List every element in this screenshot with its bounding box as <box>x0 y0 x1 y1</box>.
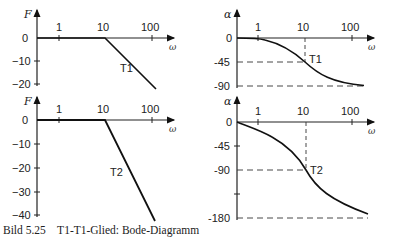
amplitude-chart-t2: F ω 1 10 100 0 −10 −20 −30 −40 T2 <box>12 95 177 221</box>
amplitude-chart-t1: F ω 1 10 100 0 −10 −20 T1 <box>12 8 177 90</box>
x-axis-label: ω <box>169 42 177 52</box>
figure-number: Bild 5.25 <box>3 224 46 236</box>
x-tick-10: 10 <box>297 21 309 33</box>
y-tick-m20: −20 <box>12 78 31 90</box>
phase-chart-t1: α ω 1 10 100 0 -45 -90 T1 <box>214 8 376 92</box>
y-tick-m90: -90 <box>214 80 230 92</box>
amplitude-line-t2 <box>37 120 155 221</box>
y-tick-m45: -45 <box>214 56 230 68</box>
phase-chart-t2: α ω 1 10 100 0 -45 -90 -180 T2 <box>208 95 376 224</box>
y-tick-0: 0 <box>226 32 232 44</box>
x-tick-100: 100 <box>341 105 359 117</box>
x-tick-10: 10 <box>297 105 309 117</box>
y-tick-m10: −10 <box>12 55 31 67</box>
y-tick-0: 0 <box>22 32 28 44</box>
curve-label-t2: T2 <box>310 164 323 176</box>
y-axis-label: F <box>23 8 32 21</box>
x-tick-1: 1 <box>56 21 62 33</box>
figure-caption: Bild 5.25 T1-T1-Glied: Bode-Diagramm <box>3 224 199 236</box>
y-tick-m30: −30 <box>12 186 31 198</box>
y-tick-m40: −40 <box>12 209 31 221</box>
x-tick-100: 100 <box>141 103 159 115</box>
x-tick-100: 100 <box>141 21 159 33</box>
y-tick-m10: −10 <box>12 138 31 150</box>
x-axis-label: ω <box>368 42 376 52</box>
y-tick-m45: -45 <box>214 140 230 152</box>
x-tick-10: 10 <box>97 103 109 115</box>
x-axis-label: ω <box>368 126 376 136</box>
curve-label-t1: T1 <box>120 62 133 74</box>
x-tick-1: 1 <box>255 105 261 117</box>
x-tick-1: 1 <box>255 21 261 33</box>
x-tick-1: 1 <box>56 103 62 115</box>
x-axis-label: ω <box>169 124 177 134</box>
y-tick-m20: −20 <box>12 162 31 174</box>
figure-title: T1-T1-Glied: Bode-Diagramm <box>57 224 199 236</box>
y-tick-m90: -90 <box>214 164 230 176</box>
curve-label-t1: T1 <box>309 53 322 65</box>
y-tick-m180: -180 <box>208 212 230 224</box>
x-tick-10: 10 <box>97 21 109 33</box>
y-axis-label: F <box>23 95 32 108</box>
amplitude-line-t1 <box>37 38 156 89</box>
phase-curve-t2 <box>237 122 368 214</box>
bode-diagram: F ω 1 10 100 0 −10 −20 T1 α ω 1 10 100 0… <box>0 0 393 241</box>
x-tick-100: 100 <box>341 21 359 33</box>
y-tick-0: 0 <box>226 116 232 128</box>
curve-label-t2: T2 <box>110 166 123 178</box>
y-tick-0: 0 <box>22 114 28 126</box>
y-axis-label: α <box>224 95 232 108</box>
y-axis-label: α <box>224 8 232 21</box>
